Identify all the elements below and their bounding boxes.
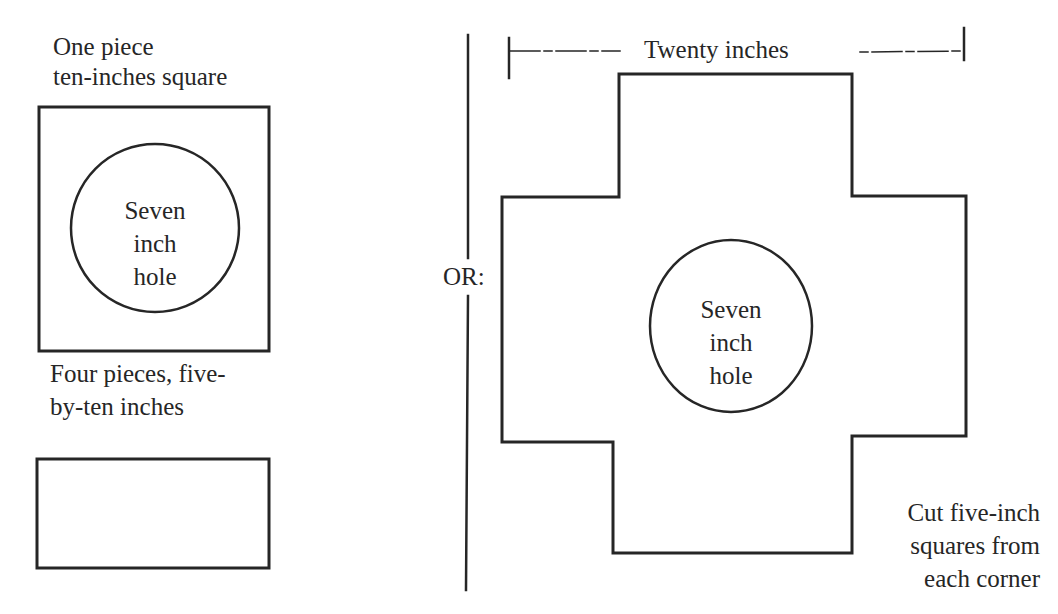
dimension-label: Twenty inches bbox=[644, 36, 789, 64]
square-caption-line2: ten-inches square bbox=[53, 63, 227, 91]
note-line2: squares from bbox=[838, 532, 1040, 560]
note-line1: Cut five-inch bbox=[838, 499, 1040, 527]
square-hole-label-line2: inch bbox=[105, 230, 205, 258]
cross-hole-label-line1: Seven bbox=[681, 296, 781, 324]
square-hole-label-line3: hole bbox=[105, 263, 205, 291]
cross-hole-label-line3: hole bbox=[681, 362, 781, 390]
rect-caption-line2: by-ten inches bbox=[50, 393, 184, 421]
divider-line-bottom bbox=[466, 296, 468, 590]
cross-hole-label-line2: inch bbox=[681, 329, 781, 357]
rect-caption-line1: Four pieces, five- bbox=[50, 360, 226, 388]
square-caption-line1: One piece bbox=[53, 33, 154, 61]
square-hole-label-line1: Seven bbox=[105, 197, 205, 225]
or-label: OR: bbox=[443, 263, 485, 291]
dimension-line-right bbox=[860, 51, 962, 52]
note-line3: each corner bbox=[838, 565, 1040, 593]
five-by-ten-rect-shape bbox=[37, 459, 269, 568]
